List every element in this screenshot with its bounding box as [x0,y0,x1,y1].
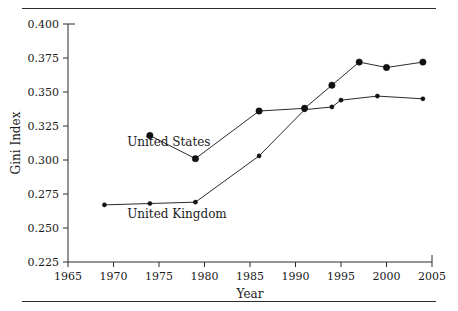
y-tick-label: 0.250 [28,222,60,235]
data-point [102,203,106,207]
x-tick-label: 1965 [54,270,82,283]
data-point [148,201,152,205]
x-tick-label: 1980 [191,270,219,283]
data-point [257,154,261,158]
data-point [383,64,389,70]
y-tick-label: 0.350 [28,86,60,99]
x-tick-label: 2000 [373,270,401,283]
data-point [303,108,307,112]
data-point [421,97,425,101]
data-point [330,105,334,109]
figure-container: 0.2250.2500.2750.3000.3250.3500.3750.400… [0,0,458,311]
y-axis-title: Gini Index [9,111,23,174]
line-chart: 0.2250.2500.2750.3000.3250.3500.3750.400… [0,0,458,311]
data-point [193,200,197,204]
x-tick-label: 1990 [282,270,310,283]
series-line-2 [104,96,423,205]
y-tick-label: 0.400 [28,18,60,31]
x-tick-label: 1995 [327,270,355,283]
axis-frame [68,24,432,262]
y-tick-label: 0.275 [28,188,60,201]
data-point [329,82,335,88]
y-tick-label: 0.225 [28,256,60,269]
data-point [375,94,379,98]
y-tick-label: 0.325 [28,120,60,133]
y-tick-label: 0.375 [28,52,60,65]
x-tick-label: 2005 [418,270,446,283]
y-tick-label: 0.300 [28,154,60,167]
data-point [192,155,198,161]
x-tick-label: 1970 [100,270,128,283]
data-point [339,98,343,102]
data-point [256,108,262,114]
series-annotation-2: United Kingdom [127,207,227,221]
x-tick-label: 1975 [145,270,173,283]
data-point [420,59,426,65]
data-point [356,59,362,65]
x-tick-label: 1985 [236,270,264,283]
series-annotation-1: United States [127,135,210,149]
x-axis-title: Year [236,287,264,301]
